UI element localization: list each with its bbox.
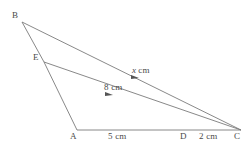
geometry-canvas (0, 0, 251, 151)
segment-ea (44, 62, 77, 130)
geometry-figure: B E A D C x cm 8 cm 5 cm 2 cm (0, 0, 251, 151)
measure-unit-x: cm (138, 65, 149, 75)
vertex-label-d: D (180, 132, 187, 141)
arrow-marker-ec (105, 92, 113, 96)
arrow-marker-bc (131, 75, 139, 79)
vertex-label-c: C (234, 132, 240, 141)
measure-label-x-cm: x cm (132, 66, 150, 75)
vertex-label-b: B (12, 11, 18, 20)
measure-label-2-cm: 2 cm (199, 132, 218, 141)
vertex-label-e: E (33, 53, 39, 62)
measure-label-5-cm: 5 cm (108, 132, 127, 141)
measure-value-x: x (132, 65, 136, 75)
vertex-label-a: A (70, 132, 77, 141)
measure-label-8-cm: 8 cm (104, 83, 123, 92)
